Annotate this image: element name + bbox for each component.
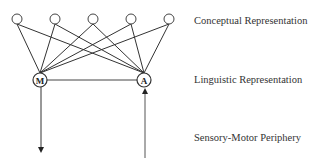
conceptual-node-5 <box>164 14 174 24</box>
node-m-label: M <box>36 76 45 86</box>
node-m: M <box>33 73 47 87</box>
layer-label-conceptual: Conceptual Representation <box>194 15 308 26</box>
conceptual-nodes <box>12 14 174 24</box>
node-a-label: A <box>141 76 148 86</box>
conceptual-to-linguistic-edges <box>17 24 169 73</box>
conceptual-node-4 <box>126 14 136 24</box>
layer-label-linguistic: Linguistic Representation <box>194 74 303 85</box>
conceptual-node-3 <box>88 14 98 24</box>
layer-label-sensory-motor: Sensory-Motor Periphery <box>194 132 302 143</box>
diagram-canvas: M A Conceptual Representation Linguistic… <box>0 0 322 160</box>
node-a: A <box>137 73 151 87</box>
conceptual-node-2 <box>50 14 60 24</box>
conceptual-node-1 <box>12 14 22 24</box>
